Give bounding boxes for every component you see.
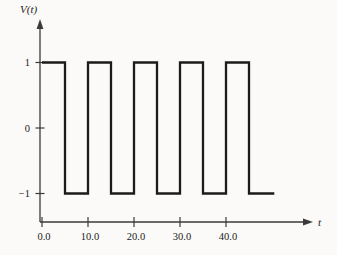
waveform: [42, 63, 274, 194]
y-tick-label: −1: [19, 188, 30, 199]
y-tick-label: 0: [25, 123, 30, 134]
square-wave-chart: 10−10.010.020.030.040.0 V(t) t: [0, 0, 337, 255]
x-tick-label: 40.0: [219, 231, 237, 242]
y-axis-arrow: [37, 19, 44, 29]
x-tick-label: 0.0: [37, 231, 50, 242]
x-axis-label: t: [318, 216, 322, 228]
x-tick-label: 10.0: [81, 231, 99, 242]
y-tick-label: 1: [25, 57, 30, 68]
square-wave-figure: 10−10.010.020.030.040.0 V(t) t: [0, 0, 337, 255]
y-axis-label: V(t): [20, 3, 37, 16]
x-axis-arrow: [303, 219, 313, 226]
x-tick-label: 30.0: [173, 231, 191, 242]
square-wave-line: [42, 63, 274, 194]
x-tick-label: 20.0: [127, 231, 145, 242]
axis-ticks: 10−10.010.020.030.040.0: [19, 57, 237, 242]
